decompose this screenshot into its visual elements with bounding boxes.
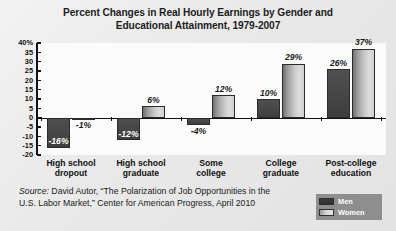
- x-axis-tick-mark: [41, 117, 42, 121]
- y-axis-tick-label: 5: [3, 105, 33, 112]
- chart-title: Percent Changes in Real Hourly Earnings …: [18, 7, 378, 32]
- bar-value-label: 37%: [347, 38, 381, 47]
- y-axis-tick-mark: [37, 98, 41, 99]
- y-axis-tick-label: 40%: [3, 39, 33, 46]
- y-axis-tick-label: 10: [3, 95, 33, 102]
- legend-swatch-women-icon: [319, 209, 334, 216]
- legend-item-women: Women: [319, 208, 379, 218]
- bar-men: [327, 69, 350, 118]
- y-axis-tick-label: 20: [3, 77, 33, 84]
- y-axis-tick-mark: [37, 136, 41, 137]
- x-axis-category-line: High school: [102, 158, 180, 168]
- x-axis-category-line: High school: [32, 158, 110, 168]
- y-axis-tick-mark: [37, 145, 41, 146]
- y-axis-tick-label: 35: [3, 49, 33, 56]
- bar-value-label: -1%: [67, 121, 101, 130]
- chart-title-line-2: Educational Attainment, 1979-2007: [18, 20, 378, 33]
- bar-value-label: 12%: [207, 85, 241, 94]
- legend-label-women: Women: [338, 209, 365, 217]
- y-axis-tick-mark: [37, 126, 41, 127]
- bar-value-label: 6%: [137, 96, 171, 105]
- y-axis-tick-label: 25: [3, 67, 33, 74]
- y-axis-tick-mark: [37, 52, 41, 53]
- x-axis-category-line: graduate: [242, 168, 320, 178]
- legend-item-men: Men: [319, 197, 379, 207]
- y-axis-tick-mark: [37, 108, 41, 109]
- bar-men: [187, 118, 210, 125]
- y-axis-tick-label: -5: [3, 123, 33, 130]
- y-axis-tick-mark: [37, 42, 41, 43]
- legend-swatch-men-icon: [319, 198, 334, 205]
- y-axis-tick-mark: [37, 154, 41, 155]
- bar-women: [212, 95, 235, 117]
- y-axis-tick-label: -20: [3, 151, 33, 158]
- chart-figure: Percent Changes in Real Hourly Earnings …: [0, 0, 396, 231]
- x-axis-tick-mark: [381, 117, 382, 121]
- y-axis-tick-mark: [37, 89, 41, 90]
- x-axis-tick-mark: [321, 117, 322, 121]
- y-axis-tick-label: 15: [3, 86, 33, 93]
- x-axis-category-line: college: [172, 168, 250, 178]
- bar-value-label: -4%: [182, 127, 216, 136]
- x-axis-category-label: Collegegraduate: [242, 158, 320, 179]
- x-axis-category-line: education: [312, 168, 390, 178]
- source-note: Source: David Autor, “The Polarization o…: [19, 186, 309, 209]
- bar-value-label: 29%: [277, 53, 311, 62]
- bar-value-label: 10%: [252, 89, 286, 98]
- x-axis-category-line: College: [242, 158, 320, 168]
- y-axis-tick-label: 0: [3, 114, 33, 121]
- y-axis-tick-mark: [37, 70, 41, 71]
- chart-legend: Men Women: [316, 194, 382, 220]
- chart-title-line-1: Percent Changes in Real Hourly Earnings …: [18, 7, 378, 20]
- bar-value-label: 26%: [322, 59, 356, 68]
- x-axis-category-line: Some: [172, 158, 250, 168]
- x-axis-tick-mark: [111, 117, 112, 121]
- x-axis-category-label: Post-collegeeducation: [312, 158, 390, 179]
- y-axis-tick-label: 30: [3, 58, 33, 65]
- x-axis-tick-mark: [251, 117, 252, 121]
- x-axis-category-line: dropout: [32, 168, 110, 178]
- x-axis-category-label: High schooldropout: [32, 158, 110, 179]
- bar-value-label: -16%: [42, 137, 76, 146]
- bar-men: [257, 99, 280, 118]
- x-axis-category-line: graduate: [102, 168, 180, 178]
- x-axis-category-label: High schoolgraduate: [102, 158, 180, 179]
- source-line-2: U.S. Labor Market,” Center for American …: [19, 198, 255, 208]
- y-axis-tick-label: -15: [3, 142, 33, 149]
- x-axis-category-line: Post-college: [312, 158, 390, 168]
- bar-women: [142, 106, 165, 117]
- bar-value-label: -12%: [112, 130, 146, 139]
- y-axis-tick-label: -10: [3, 133, 33, 140]
- legend-label-men: Men: [338, 198, 353, 206]
- x-axis-tick-mark: [181, 117, 182, 121]
- source-label: Source:: [19, 186, 49, 196]
- y-axis-tick-mark: [37, 80, 41, 81]
- source-line-1: David Autor, “The Polarization of Job Op…: [49, 186, 270, 196]
- x-axis-category-label: Somecollege: [172, 158, 250, 179]
- y-axis-tick-mark: [37, 61, 41, 62]
